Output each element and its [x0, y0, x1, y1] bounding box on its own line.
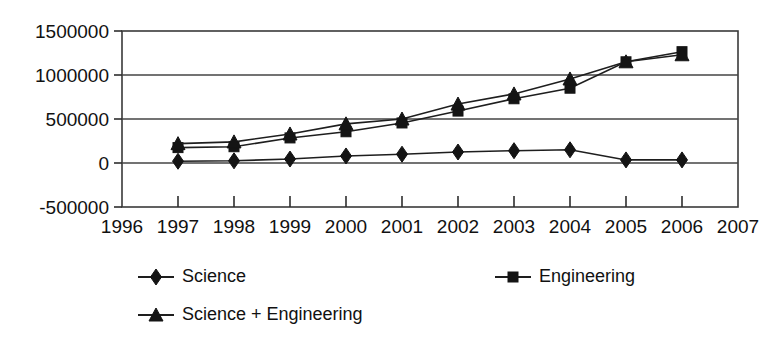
marker-diamond [341, 148, 352, 164]
marker-diamond [229, 153, 240, 169]
line-chart: 150000010000005000000-500000 19961997199… [0, 0, 781, 348]
marker-square [508, 272, 518, 282]
x-axis-tick-label: 2001 [381, 216, 423, 237]
y-axis-tick-label: 500000 [46, 109, 109, 130]
series-line [178, 52, 682, 148]
marker-diamond [453, 144, 464, 160]
y-axis-tick-labels: 150000010000005000000-500000 [35, 21, 109, 218]
legend-item-science-engineering[interactable]: Science + Engineering [138, 304, 363, 324]
x-axis-ticks [178, 196, 682, 207]
series-line [178, 150, 682, 161]
marker-diamond [677, 152, 688, 168]
marker-diamond [397, 146, 408, 162]
series-science [173, 142, 688, 169]
y-axis-ticks [114, 31, 122, 207]
x-axis-tick-label: 2006 [661, 216, 703, 237]
x-axis-tick-label: 2005 [605, 216, 647, 237]
marker-diamond [621, 152, 632, 168]
x-axis-tick-label: 2007 [717, 216, 759, 237]
y-axis-tick-label: 0 [98, 153, 109, 174]
series-science-engineering [171, 48, 689, 150]
chart-canvas: 150000010000005000000-500000 19961997199… [0, 0, 781, 348]
chart-legend: ScienceEngineeringScience + Engineering [138, 266, 635, 324]
x-axis-tick-label: 1998 [213, 216, 255, 237]
series-line [178, 55, 682, 144]
x-axis-tick-label: 1999 [269, 216, 311, 237]
x-axis-tick-label: 2003 [493, 216, 535, 237]
gridlines [122, 75, 738, 163]
y-axis-tick-label: 1000000 [35, 65, 109, 86]
legend-item-science[interactable]: Science [138, 266, 246, 286]
data-series-layer [171, 47, 689, 170]
marker-diamond [285, 151, 296, 167]
marker-diamond [151, 269, 162, 285]
x-axis-tick-label: 2004 [549, 216, 592, 237]
x-axis-tick-label: 1996 [101, 216, 143, 237]
x-axis-tick-label: 2000 [325, 216, 367, 237]
marker-diamond [509, 143, 520, 159]
y-axis-tick-label: 1500000 [35, 21, 109, 42]
marker-diamond [565, 142, 576, 158]
marker-triangle [563, 72, 577, 85]
legend-item-label: Science [182, 266, 246, 286]
legend-item-label: Engineering [539, 266, 635, 286]
legend-item-label: Science + Engineering [182, 304, 363, 324]
x-axis-tick-label: 1997 [157, 216, 199, 237]
series-engineering [173, 47, 687, 153]
y-axis-tick-label: -500000 [39, 197, 109, 218]
x-axis-tick-label: 2002 [437, 216, 479, 237]
x-axis-tick-labels: 1996199719981999200020012002200320042005… [101, 216, 759, 237]
marker-diamond [173, 153, 184, 169]
legend-item-engineering[interactable]: Engineering [495, 266, 635, 286]
